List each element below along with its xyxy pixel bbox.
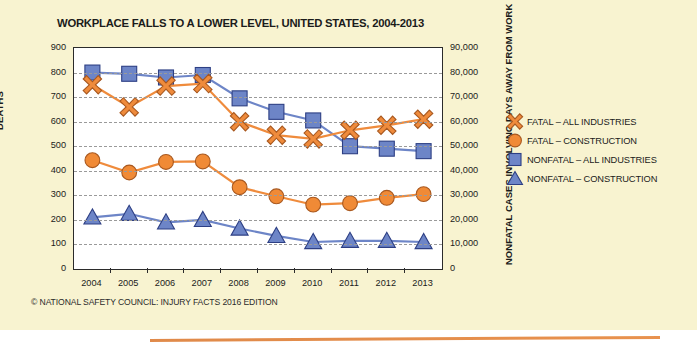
x-axis-tick: 2005: [108, 278, 148, 288]
y-axis-left-tick: 800: [20, 67, 66, 77]
chart-page: WORKPLACE FALLS TO A LOWER LEVEL, UNITED…: [0, 0, 697, 357]
legend-item-label: NONFATAL – CONSTRUCTION: [527, 174, 657, 184]
y-axis-left-tick: 300: [20, 189, 66, 199]
x-axis-tickmark: [404, 268, 405, 273]
x-axis-tickmark: [183, 268, 184, 273]
x-icon: [505, 112, 527, 131]
y-axis-left-tick: 700: [20, 91, 66, 101]
y-axis-right-tick: 30,000: [450, 189, 478, 199]
gridline: [74, 244, 442, 245]
x-axis-tick: 2006: [145, 278, 185, 288]
y-axis-left-label: DEATHS: [0, 91, 5, 130]
gridline: [74, 97, 442, 98]
x-axis-tick: 2008: [219, 278, 259, 288]
y-axis-right-tick: 40,000: [450, 165, 478, 175]
y-axis-left-tick: 900: [20, 42, 66, 52]
gridline: [74, 146, 442, 147]
y-axis-right-tick: 0: [450, 263, 455, 273]
source-credit: © NATIONAL SAFETY COUNCIL: INJURY FACTS …: [31, 297, 278, 307]
decorative-rule: [150, 336, 660, 342]
x-axis-tick: 2007: [182, 278, 222, 288]
series-circle: [85, 153, 431, 212]
page-title: WORKPLACE FALLS TO A LOWER LEVEL, UNITED…: [57, 17, 424, 29]
x-axis-tick: 2012: [366, 278, 406, 288]
x-axis-tick: 2011: [329, 278, 369, 288]
legend-item-label: NONFATAL – ALL INDUSTRIES: [527, 155, 657, 165]
x-axis-tickmark: [367, 268, 368, 273]
y-axis-right-tick: 50,000: [450, 140, 478, 150]
square-icon: [505, 150, 527, 169]
series-triangle: [84, 205, 432, 248]
y-axis-right-tick: 20,000: [450, 214, 478, 224]
y-axis-right-tick: 60,000: [450, 116, 478, 126]
gridline: [74, 122, 442, 123]
x-axis-tick: 2013: [403, 278, 443, 288]
x-axis-tickmark: [147, 268, 148, 273]
circle-icon: [505, 131, 527, 150]
y-axis-left-tick: 400: [20, 165, 66, 175]
legend-item-label: FATAL – CONSTRUCTION: [527, 136, 637, 146]
y-axis-right-tick: 10,000: [450, 238, 478, 248]
x-axis-tickmark: [220, 268, 221, 273]
gridline: [74, 220, 442, 221]
gridline: [74, 171, 442, 172]
legend-item-label: FATAL – ALL INDUSTRIES: [527, 117, 636, 127]
legend-item[interactable]: NONFATAL – CONSTRUCTION: [505, 169, 695, 188]
legend: FATAL – ALL INDUSTRIESFATAL – CONSTRUCTI…: [505, 112, 695, 188]
series-layer: [74, 48, 442, 269]
y-axis-right-tick: 70,000: [450, 91, 478, 101]
x-axis-tick: 2010: [292, 278, 332, 288]
y-axis-left-tick: 200: [20, 214, 66, 224]
legend-item[interactable]: FATAL – ALL INDUSTRIES: [505, 112, 695, 131]
x-axis-tickmark: [294, 268, 295, 273]
x-axis-tick: 2009: [255, 278, 295, 288]
y-axis-left-tick: 500: [20, 140, 66, 150]
triangle-icon: [505, 169, 527, 188]
gridline: [74, 73, 442, 74]
y-axis-left-tick: 600: [20, 116, 66, 126]
y-axis-left-tick: 0: [20, 263, 66, 273]
gridline: [74, 195, 442, 196]
x-axis-tickmark: [257, 268, 258, 273]
x-axis-tickmark: [331, 268, 332, 273]
series-x: [83, 74, 433, 148]
x-axis-tick: 2004: [71, 278, 111, 288]
y-axis-right-tick: 80,000: [450, 67, 478, 77]
y-axis-left-tick: 100: [20, 238, 66, 248]
y-axis-right-tick: 90,000: [450, 42, 478, 52]
x-axis-tickmark: [110, 268, 111, 273]
plot-area: [73, 47, 443, 270]
legend-item[interactable]: FATAL – CONSTRUCTION: [505, 131, 695, 150]
legend-item[interactable]: NONFATAL – ALL INDUSTRIES: [505, 150, 695, 169]
